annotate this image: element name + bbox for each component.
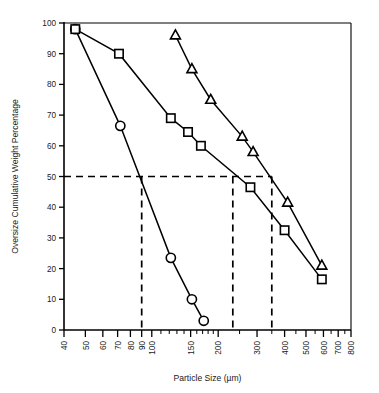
data-point-square [71, 25, 79, 33]
y-tick-label: 100 [42, 19, 56, 28]
x-tick-label: 600 [320, 341, 329, 355]
x-tick-label: 500 [302, 341, 311, 355]
y-tick-label: 80 [47, 80, 57, 89]
chart-background [0, 0, 379, 393]
y-tick-label: 10 [47, 295, 57, 304]
y-tick-label: 50 [47, 173, 57, 182]
particle-size-distribution-chart: 405060708090100150200300400500600700800 … [0, 0, 379, 393]
data-point-circle [199, 316, 208, 325]
y-tick-label: 0 [51, 326, 56, 335]
x-tick-label: 80 [127, 341, 136, 351]
x-tick-label: 60 [99, 341, 108, 351]
data-point-square [280, 226, 288, 234]
y-axis-title: Oversize Cumulative Weight Percentage [10, 99, 20, 254]
x-tick-label: 800 [347, 341, 356, 355]
data-point-square [197, 142, 205, 150]
x-tick-label: 70 [114, 341, 123, 351]
y-tick-label: 20 [47, 265, 57, 274]
x-tick-label: 200 [214, 341, 223, 355]
y-tick-label: 70 [47, 111, 57, 120]
x-axis-title: Particle Size (µm) [174, 373, 242, 383]
chart-canvas: 405060708090100150200300400500600700800 … [0, 0, 379, 393]
x-tick-label: 100 [148, 341, 157, 355]
data-point-circle [187, 295, 196, 304]
x-tick-label: 150 [187, 341, 196, 355]
y-tick-label: 90 [47, 50, 57, 59]
data-point-circle [116, 121, 125, 130]
data-point-square [184, 128, 192, 136]
x-tick-label: 400 [281, 341, 290, 355]
x-tick-label: 40 [60, 341, 69, 351]
data-point-square [115, 50, 123, 58]
x-tick-label: 700 [334, 341, 343, 355]
data-point-circle [166, 253, 175, 262]
data-point-square [246, 183, 254, 191]
y-tick-label: 30 [47, 234, 57, 243]
x-tick-label: 300 [253, 341, 262, 355]
data-point-square [167, 114, 175, 122]
x-tick-label: 90 [138, 341, 147, 351]
x-tick-label: 50 [82, 341, 91, 351]
data-point-square [318, 275, 326, 283]
y-tick-label: 40 [47, 203, 57, 212]
y-tick-label: 60 [47, 142, 57, 151]
